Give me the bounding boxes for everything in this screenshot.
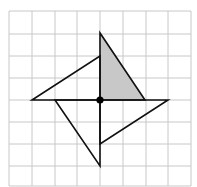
pinwheel-diagram: [0, 0, 197, 187]
center-point: [96, 96, 103, 103]
